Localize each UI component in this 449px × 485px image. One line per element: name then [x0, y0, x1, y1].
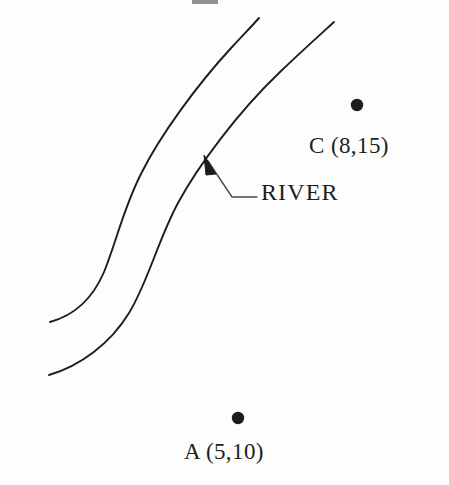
- river-arrowhead-icon: [204, 155, 216, 175]
- point-marker-a: [232, 412, 244, 424]
- point-marker-c: [351, 99, 363, 111]
- diagram-canvas: [0, 0, 449, 485]
- point-label-a: A (5,10): [184, 440, 264, 463]
- river-left-bank: [50, 18, 259, 322]
- river-leader-line: [208, 161, 257, 197]
- point-label-c: C (8,15): [309, 134, 389, 157]
- river-annotation-label: RIVER: [261, 180, 339, 204]
- river-site-diagram: C (8,15) A (5,10) RIVER: [0, 0, 449, 485]
- scan-artifact-mark: [192, 0, 218, 4]
